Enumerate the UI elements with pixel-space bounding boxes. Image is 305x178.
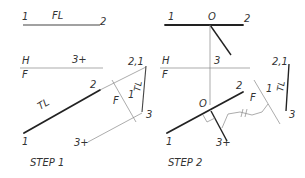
label-front-1: 1 (22, 136, 28, 147)
label-top-2: 2 (100, 16, 106, 27)
label-aux-21: 2,1 (128, 56, 144, 67)
label-top-FL: FL (52, 10, 63, 21)
label-aux-3: 3 (289, 109, 295, 120)
label-fold-F: F (22, 69, 28, 80)
descriptive-geometry-diagram: 1 FL 2 H F 3+ TL 1 2 3+ F 1 2,1 TL 3 STE… (0, 0, 305, 178)
label-aux-TL: TL (132, 80, 144, 92)
label-fold2-1: 1 (266, 83, 272, 94)
aux-view-line-TL (142, 66, 146, 112)
step-1-caption: STEP 1 (30, 157, 64, 168)
step-1-panel: 1 FL 2 H F 3+ TL 1 2 3+ F 1 2,1 TL 3 STE… (20, 10, 152, 168)
projector-3-to-aux (88, 113, 142, 142)
label-top-1: 1 (22, 11, 28, 22)
label-front-2: 2 (236, 80, 242, 91)
label-fold-H: H (22, 55, 30, 66)
step-2-panel: 1 O 2 H F 3 1 O 2 3+ F 1 2,1 TL 3 (160, 11, 295, 168)
label-front-3: 3+ (74, 137, 89, 148)
label-aux-3: 3 (146, 109, 152, 120)
label-fold2-F: F (113, 95, 119, 106)
front-view-line-TL (24, 90, 100, 133)
label-point-3-top: 3 (214, 55, 220, 66)
top-view-line-O-3 (210, 25, 231, 55)
label-front-2: 2 (90, 79, 96, 90)
label-aux-21: 2,1 (272, 56, 288, 67)
label-fold2-F: F (250, 92, 256, 103)
label-front-TL: TL (36, 96, 52, 111)
label-front-1: 1 (166, 136, 172, 147)
label-fold-H: H (162, 55, 170, 66)
label-front-O: O (199, 98, 207, 109)
label-point-3-top: 3+ (72, 54, 87, 65)
aux-view-line-TL (286, 64, 289, 111)
label-top-1: 1 (168, 11, 174, 22)
label-fold-F: F (162, 69, 168, 80)
label-top-2: 2 (244, 13, 250, 24)
label-top-O: O (208, 11, 216, 22)
step-2-caption: STEP 2 (168, 157, 202, 168)
label-aux-TL: TL (275, 80, 287, 92)
label-front-3: 3+ (216, 137, 231, 148)
